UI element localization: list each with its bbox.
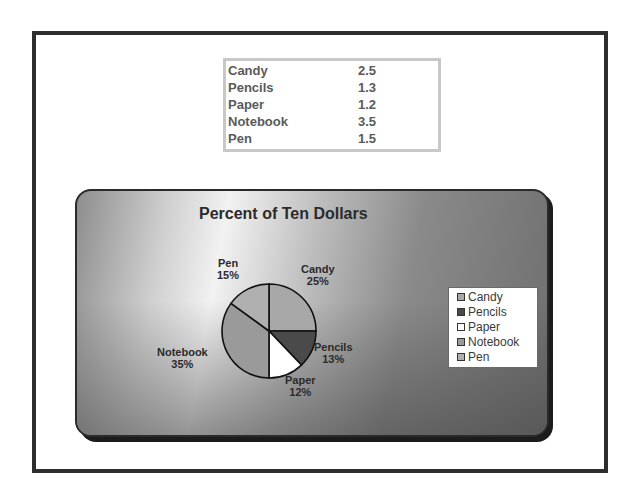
- data-label-candy: Candy 25%: [301, 263, 335, 287]
- data-label-pen: Pen 15%: [217, 257, 239, 281]
- data-label-pct: 25%: [301, 275, 335, 287]
- row-label: Candy: [228, 63, 268, 78]
- data-label-name: Notebook: [157, 346, 208, 358]
- row-label: Pen: [228, 131, 252, 146]
- chart-legend: Candy Pencils Paper Notebook Pen: [448, 287, 538, 368]
- data-label-paper: Paper 12%: [285, 374, 316, 398]
- legend-label: Paper: [468, 320, 500, 334]
- legend-swatch-icon: [457, 338, 465, 346]
- pie-slice-candy[interactable]: [269, 284, 316, 331]
- row-value: 1.3: [358, 80, 376, 95]
- data-label-notebook: Notebook 35%: [157, 346, 208, 370]
- chart-title: Percent of Ten Dollars: [199, 205, 368, 223]
- pie-chart: [219, 281, 319, 381]
- row-label: Notebook: [228, 114, 288, 129]
- legend-swatch-icon: [457, 353, 465, 361]
- data-label-name: Pen: [217, 257, 239, 269]
- data-label-pct: 35%: [157, 358, 208, 370]
- data-label-pencils: Pencils 13%: [314, 341, 353, 365]
- row-value: 2.5: [358, 63, 376, 78]
- row-value: 3.5: [358, 114, 376, 129]
- data-label-pct: 13%: [314, 353, 353, 365]
- data-table: Candy 2.5 Pencils 1.3 Paper 1.2 Notebook…: [223, 58, 441, 152]
- legend-swatch-icon: [457, 308, 465, 316]
- chart-area: Percent of Ten Dollars Pen 15% Candy 25%…: [75, 189, 549, 437]
- row-value: 1.2: [358, 97, 376, 112]
- data-label-pct: 12%: [285, 386, 316, 398]
- legend-label: Pencils: [468, 305, 507, 319]
- data-label-name: Candy: [301, 263, 335, 275]
- data-label-name: Pencils: [314, 341, 353, 353]
- legend-label: Candy: [468, 290, 503, 304]
- legend-swatch-icon: [457, 323, 465, 331]
- row-label: Paper: [228, 97, 264, 112]
- row-value: 1.5: [358, 131, 376, 146]
- data-label-name: Paper: [285, 374, 316, 386]
- legend-swatch-icon: [457, 293, 465, 301]
- row-label: Pencils: [228, 80, 274, 95]
- legend-label: Notebook: [468, 335, 519, 349]
- legend-label: Pen: [468, 350, 489, 364]
- data-label-pct: 15%: [217, 269, 239, 281]
